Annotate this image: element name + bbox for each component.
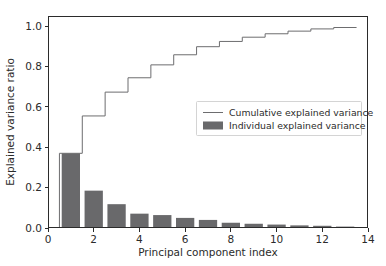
x-axis-label: Principal component index <box>138 246 278 258</box>
x-tick-label-10: 10 <box>270 233 283 245</box>
y-tick-label-1.0: 1.0 <box>25 20 42 32</box>
x-tick-label-14: 14 <box>361 233 375 245</box>
x-tick-label-0: 0 <box>45 233 52 245</box>
bar-pc-2 <box>85 191 103 228</box>
y-tick-label-0.0: 0.0 <box>25 222 42 234</box>
scree-plot-chart: 02468101214 0.00.20.40.60.81.0 Principal… <box>0 0 386 266</box>
bar-pc-6 <box>176 218 194 228</box>
bar-pc-3 <box>107 204 125 228</box>
x-tick-label-6: 6 <box>182 233 189 245</box>
x-tick-label-8: 8 <box>228 233 235 245</box>
y-tick-label-0.2: 0.2 <box>25 181 42 193</box>
bar-pc-7 <box>199 220 217 228</box>
legend-patch-sample <box>203 122 223 130</box>
legend-label-individual: Individual explained variance <box>229 120 366 131</box>
x-tick-label-4: 4 <box>136 233 143 245</box>
x-tick-label-2: 2 <box>90 233 97 245</box>
y-axis-label: Explained variance ratio <box>4 58 16 186</box>
bar-pc-5 <box>153 215 171 228</box>
y-tick-label-0.6: 0.6 <box>25 101 42 113</box>
legend-label-cumulative: Cumulative explained variance <box>229 107 374 118</box>
chart-legend: Cumulative explained variance Individual… <box>197 102 374 136</box>
bar-pc-1 <box>62 153 80 228</box>
matplotlib-figure: 02468101214 0.00.20.40.60.81.0 Principal… <box>0 0 386 266</box>
bar-pc-4 <box>130 214 148 228</box>
y-tick-label-0.4: 0.4 <box>25 141 42 153</box>
x-tick-label-12: 12 <box>316 233 329 245</box>
y-tick-label-0.8: 0.8 <box>25 60 42 72</box>
